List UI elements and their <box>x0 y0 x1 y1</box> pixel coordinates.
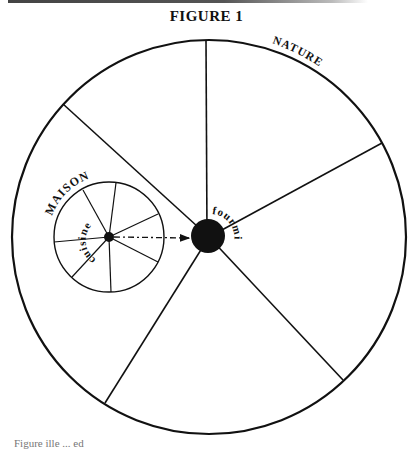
fourmi-dot <box>191 219 225 253</box>
nature-label: NATURE <box>271 34 325 69</box>
bottom-cut-text: Figure ille ... ed <box>14 437 84 449</box>
cuisine-dot <box>104 232 114 242</box>
